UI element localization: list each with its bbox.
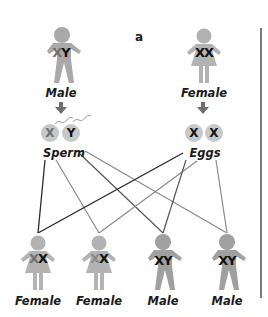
- line-egg2-to-offspring4: [216, 160, 227, 233]
- offspring-4-chromosomes: XY: [218, 253, 235, 268]
- offspring-1-label: Female: [15, 294, 61, 308]
- sperm-tail-icon: [73, 115, 91, 122]
- offspring-3-label: Male: [148, 294, 179, 308]
- vertical-divider: [260, 28, 262, 298]
- panel-letter: a: [135, 30, 143, 44]
- arrow-down-icon: [55, 102, 67, 114]
- parent-female-chromosomes: XX: [195, 45, 213, 60]
- arrow-down-icon: [197, 102, 209, 114]
- sperm-label: Sperm: [43, 146, 85, 160]
- sperm-tail-icon: [55, 117, 73, 124]
- offspring-2-chromosomes: XX: [90, 251, 108, 266]
- line-spermx-to-offspring1: [38, 160, 45, 233]
- parent-male-chromosomes: XY: [52, 45, 69, 60]
- sperm-x: X: [41, 124, 59, 142]
- offspring-3-chromosomes: XY: [154, 253, 171, 268]
- line-spermx-to-offspring2: [56, 160, 99, 233]
- offspring-1-chromosomes: XX: [29, 251, 47, 266]
- parent-male-label: Male: [46, 86, 77, 100]
- parent-female-label: Female: [181, 86, 227, 100]
- offspring-2-label: Female: [76, 294, 122, 308]
- line-egg1-to-offspring1: [38, 153, 183, 233]
- line-egg1-to-offspring3: [163, 160, 186, 233]
- egg-x-2: X: [205, 124, 223, 142]
- egg-x-1: X: [185, 124, 203, 142]
- line-spermy-to-offspring4: [85, 151, 227, 233]
- sperm-y: Y: [62, 124, 80, 142]
- eggs-label: Eggs: [189, 146, 220, 160]
- sex-determination-diagram: a XY Male XX Female X Y Sperm X X Eggs X…: [0, 0, 268, 317]
- offspring-4-label: Male: [212, 294, 243, 308]
